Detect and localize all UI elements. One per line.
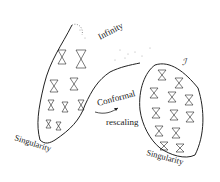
label-scri: ℐ: [182, 57, 188, 67]
label-conformal: Conformal: [96, 88, 137, 108]
arrow-head: [114, 108, 118, 111]
conformal-rescaling-diagram: Infinity Conformal rescaling Singularity…: [0, 0, 220, 182]
label-rescaling: rescaling: [106, 117, 139, 127]
light-cones-right: [150, 70, 194, 152]
right-spacetime-region: [140, 64, 203, 157]
label-infinity: Infinity: [96, 20, 125, 42]
label-singularity-left: Singularity: [13, 132, 53, 153]
